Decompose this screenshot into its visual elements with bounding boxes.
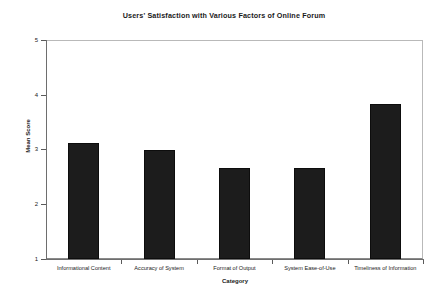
x-tick-mark [423,260,424,264]
x-tick-label-2: Format of Output [197,265,272,271]
x-tick-label-4: Timeliness of Information [348,265,423,271]
y-axis-line [46,40,47,260]
y-tick-mark [41,204,46,205]
bar-1[interactable] [144,150,175,260]
y-tick-label: 5 [8,37,38,43]
bar-0[interactable] [68,143,99,259]
x-tick-mark [272,260,273,264]
y-tick-label: 1 [8,256,38,262]
y-tick-label: 2 [8,201,38,207]
y-axis-title: Mean Score [25,106,31,166]
y-tick-mark [41,149,46,150]
chart-title: Users' Satisfaction with Various Factors… [0,11,448,20]
bar-chart: Users' Satisfaction with Various Factors… [0,0,448,304]
x-axis-title: Category [46,278,424,284]
x-tick-label-0: Informational Content [46,265,121,271]
bar-3[interactable] [294,168,325,259]
y-tick-mark [41,40,46,41]
y-tick-label: 4 [8,92,38,98]
bar-4[interactable] [370,104,401,259]
x-tick-mark [121,260,122,264]
bar-2[interactable] [219,168,250,259]
y-tick-label: 3 [8,146,38,152]
y-tick-mark [41,259,46,260]
x-tick-mark [197,260,198,264]
y-tick-mark [41,95,46,96]
x-tick-label-1: Accuracy of System [121,265,196,271]
x-axis-line [46,259,424,260]
x-tick-mark [348,260,349,264]
x-tick-label-3: System Ease-of-Use [272,265,347,271]
